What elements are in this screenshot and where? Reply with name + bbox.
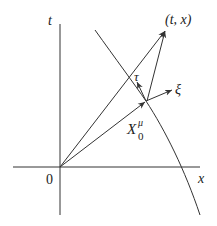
spacetime-diagram: t x 0 (t, x) τ ξ X μ 0: [0, 0, 217, 226]
x0-label-superscript: μ: [137, 117, 143, 128]
event-point-label: (t, x): [165, 12, 192, 28]
origin-label: 0: [46, 172, 53, 187]
hyperbola-curve: [95, 30, 200, 215]
x-axis-label: x: [197, 171, 205, 186]
vector-to-event: [60, 31, 165, 167]
t-axis-label: t: [48, 13, 53, 28]
vector-x0-to-event: [147, 31, 165, 101]
x0-label-subscript: 0: [138, 130, 144, 142]
tau-vector: [137, 82, 146, 101]
tau-label: τ: [134, 69, 140, 84]
x0-label-base: X: [126, 121, 137, 137]
xi-label: ξ: [175, 82, 181, 97]
